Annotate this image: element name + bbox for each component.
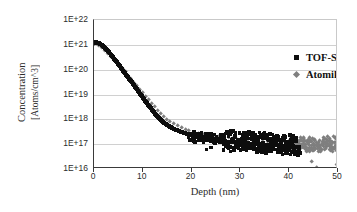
data-point-atomika bbox=[335, 148, 337, 153]
data-point-tof-sims bbox=[264, 151, 268, 155]
data-point-tof-sims bbox=[209, 146, 212, 149]
x-axis-tick-labels: 01020304050 bbox=[0, 171, 357, 185]
sims-depth-profile-chart: Concentration [Atoms/cm^3] 1E+221E+211E+… bbox=[0, 0, 357, 212]
data-point-tof-sims bbox=[296, 153, 300, 157]
y-tick-label: 1E+17 bbox=[42, 139, 88, 147]
y-tick-label: 1E+21 bbox=[42, 40, 88, 48]
gridline bbox=[94, 95, 336, 96]
y-tick-label: 1E+22 bbox=[42, 15, 88, 23]
legend-label-atomika: Atomika bbox=[306, 69, 337, 80]
y-tick-label: 1E+18 bbox=[42, 114, 88, 122]
y-tick-label: 1E+19 bbox=[42, 90, 88, 98]
legend-label-tof-sims: TOF-SIMS IV bbox=[306, 52, 337, 63]
data-point-tof-sims bbox=[282, 134, 286, 138]
data-point-atomika bbox=[309, 160, 314, 165]
gridline bbox=[94, 45, 336, 46]
gridline bbox=[94, 119, 336, 120]
data-point-tof-sims bbox=[297, 147, 301, 151]
data-point-tof-sims bbox=[290, 140, 294, 144]
x-tick-label: 0 bbox=[81, 171, 105, 181]
data-point-atomika bbox=[336, 163, 337, 168]
x-tick-label: 40 bbox=[276, 171, 300, 181]
legend-item-atomika: Atomika bbox=[290, 67, 337, 82]
x-tick-label: 20 bbox=[179, 171, 203, 181]
data-point-tof-sims bbox=[255, 150, 259, 154]
x-tick-label: 30 bbox=[227, 171, 251, 181]
data-point-tof-sims bbox=[233, 148, 237, 152]
legend-item-tof-sims: TOF-SIMS IV bbox=[290, 50, 337, 65]
data-point-tof-sims bbox=[294, 139, 298, 143]
plot-area: TOF-SIMS IV Atomika bbox=[93, 19, 337, 168]
y-tick-label: 1E+20 bbox=[42, 65, 88, 73]
square-marker-icon bbox=[290, 55, 302, 60]
data-point-tof-sims bbox=[222, 148, 225, 151]
x-tick-label: 50 bbox=[325, 171, 349, 181]
data-point-atomika bbox=[314, 165, 319, 168]
x-axis-title: Depth (nm) bbox=[93, 186, 337, 197]
data-point-tof-sims bbox=[205, 148, 208, 151]
y-axis-title-line1: Concentration bbox=[14, 14, 28, 170]
chart-legend: TOF-SIMS IV Atomika bbox=[290, 50, 337, 84]
x-tick-label: 10 bbox=[130, 171, 154, 181]
diamond-marker-icon bbox=[290, 72, 302, 77]
